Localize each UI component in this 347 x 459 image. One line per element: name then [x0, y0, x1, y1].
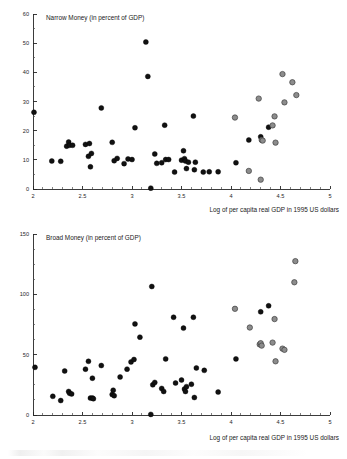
data-point-dark: [181, 148, 186, 153]
data-point-dark: [192, 167, 197, 172]
data-point-dark: [58, 159, 63, 164]
svg-text:4: 4: [229, 419, 232, 425]
data-point-dark: [172, 170, 177, 175]
svg-text:50: 50: [23, 40, 29, 46]
data-point-dark: [183, 389, 188, 394]
svg-text:4.5: 4.5: [277, 419, 285, 425]
data-point-dark: [83, 367, 88, 372]
data-point-dark: [179, 378, 184, 383]
broad-money-axes: [33, 234, 330, 415]
data-point-dark: [111, 388, 116, 393]
svg-text:0: 0: [26, 412, 29, 418]
data-point-dark: [143, 40, 148, 45]
svg-text:3.5: 3.5: [178, 419, 186, 425]
broad-money-title: Broad Money (in percent of GDP): [46, 234, 141, 242]
data-point-dark: [88, 164, 93, 169]
data-point-dark: [132, 321, 137, 326]
data-point-dark: [115, 156, 120, 161]
data-point-gray: [292, 280, 297, 285]
data-point-gray: [270, 123, 275, 128]
data-point-dark: [207, 169, 212, 174]
chart-panel-narrow-money: 22.533.544.550102030405060 Narrow Money …: [0, 0, 347, 222]
narrow-money-title: Narrow Money (in percent of GDP): [46, 14, 144, 22]
data-point-gray: [282, 347, 287, 352]
data-point-gray: [290, 80, 295, 85]
data-point-dark: [189, 382, 194, 387]
data-point-dark: [233, 356, 238, 361]
data-point-gray: [259, 343, 264, 348]
data-point-gray: [272, 114, 277, 119]
data-point-gray: [232, 306, 237, 311]
data-point-dark: [184, 384, 189, 389]
svg-text:3.5: 3.5: [178, 193, 186, 199]
data-point-gray: [247, 325, 252, 330]
data-point-dark: [184, 166, 189, 171]
data-point-gray: [282, 100, 287, 105]
data-point-dark: [173, 381, 178, 386]
svg-text:4.5: 4.5: [277, 193, 285, 199]
data-point-dark: [216, 390, 221, 395]
data-point-dark: [201, 170, 206, 175]
data-point-gray: [260, 138, 265, 143]
data-point-dark: [70, 143, 75, 148]
data-point-dark: [99, 363, 104, 368]
svg-text:0: 0: [26, 186, 29, 192]
data-point-gray: [273, 359, 278, 364]
data-point-dark: [112, 393, 117, 398]
narrow-money-x-axis-title: Log of per capita real GDP in 1995 US do…: [209, 206, 339, 214]
svg-text:30: 30: [23, 99, 29, 105]
data-point-dark: [181, 326, 186, 331]
svg-text:20: 20: [23, 128, 29, 134]
svg-text:10: 10: [23, 157, 29, 163]
data-point-dark: [192, 395, 197, 400]
svg-text:150: 150: [20, 231, 29, 237]
narrow-money-data-points: [31, 40, 299, 191]
data-point-dark: [90, 376, 95, 381]
svg-text:5: 5: [328, 419, 331, 425]
data-point-gray: [293, 258, 298, 263]
data-point-dark: [87, 141, 92, 146]
data-point-dark: [130, 157, 135, 162]
data-point-dark: [154, 161, 159, 166]
data-point-gray: [272, 316, 277, 321]
broad-money-x-axis-title: Log of per capita real GDP in 1995 US do…: [209, 434, 339, 442]
data-point-dark: [216, 169, 221, 174]
data-point-dark: [191, 315, 196, 320]
data-point-dark: [233, 160, 238, 165]
data-point-dark: [91, 396, 96, 401]
data-point-gray: [270, 340, 275, 345]
data-point-dark: [31, 110, 36, 115]
data-point-dark: [32, 365, 37, 370]
svg-text:2.5: 2.5: [79, 419, 87, 425]
data-point-gray: [232, 115, 237, 120]
data-point-dark: [186, 160, 191, 165]
data-point-dark: [193, 160, 198, 165]
data-point-gray: [280, 71, 285, 76]
svg-text:2: 2: [31, 419, 34, 425]
svg-text:60: 60: [23, 11, 29, 17]
data-point-dark: [145, 74, 150, 79]
data-point-dark: [258, 309, 263, 314]
svg-text:50: 50: [23, 352, 29, 358]
data-point-dark: [131, 357, 136, 362]
data-point-dark: [62, 368, 67, 373]
svg-text:3: 3: [130, 419, 133, 425]
page-scan-artifact: [8, 450, 308, 456]
svg-text:3: 3: [130, 193, 133, 199]
narrow-money-plot: 22.533.544.550102030405060 Narrow Money …: [0, 0, 347, 222]
data-point-gray: [256, 96, 261, 101]
data-point-dark: [152, 380, 157, 385]
data-point-dark: [202, 368, 207, 373]
data-point-dark: [118, 374, 123, 379]
data-point-dark: [148, 186, 153, 191]
data-point-dark: [162, 123, 167, 128]
data-point-gray: [258, 177, 263, 182]
data-point-gray: [294, 92, 299, 97]
data-point-dark: [125, 367, 130, 372]
data-point-dark: [163, 356, 168, 361]
broad-money-plot: 22.533.544.55050100150 Broad Money (in p…: [0, 222, 347, 450]
data-point-dark: [161, 389, 166, 394]
data-point-dark: [149, 284, 154, 289]
broad-money-data-points: [32, 258, 298, 416]
data-point-dark: [99, 105, 104, 110]
